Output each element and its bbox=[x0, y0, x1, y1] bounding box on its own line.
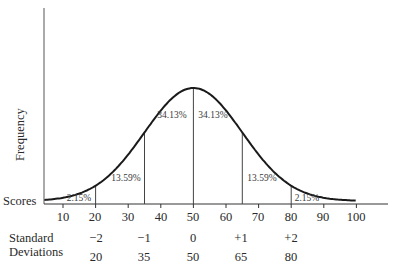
tick-label: 30 bbox=[122, 210, 135, 225]
x-axis-label: Scores bbox=[3, 194, 36, 209]
tick-label: 70 bbox=[252, 210, 265, 225]
sd-value: +1 bbox=[234, 231, 247, 246]
sd-score: 20 bbox=[90, 250, 103, 265]
region-percent: 13.59% bbox=[111, 173, 140, 183]
tick-label: 20 bbox=[89, 210, 102, 225]
x-axis-ticks bbox=[63, 204, 356, 208]
tick-label: 40 bbox=[155, 210, 168, 225]
sd-value: −1 bbox=[137, 231, 150, 246]
normal-curve bbox=[44, 88, 355, 201]
normal-curve-chart bbox=[0, 0, 396, 274]
sd-label-line2: Deviations bbox=[9, 245, 63, 260]
tick-label: 10 bbox=[57, 210, 70, 225]
region-percent: 34.13% bbox=[157, 110, 186, 120]
tick-label: 100 bbox=[347, 210, 366, 225]
sd-divider-lines bbox=[96, 88, 292, 204]
tick-label: 90 bbox=[317, 210, 330, 225]
sd-value: 0 bbox=[190, 231, 196, 246]
sd-score: 65 bbox=[235, 250, 248, 265]
tick-label: 60 bbox=[220, 210, 233, 225]
region-percent: 2.15% bbox=[67, 193, 92, 203]
sd-label-line1: Standard bbox=[9, 231, 53, 246]
sd-value: −2 bbox=[89, 231, 102, 246]
region-percent: 13.59% bbox=[247, 173, 276, 183]
sd-value: +2 bbox=[284, 231, 297, 246]
region-percent: 34.13% bbox=[198, 110, 227, 120]
tick-label: 80 bbox=[285, 210, 298, 225]
sd-score: 35 bbox=[138, 250, 151, 265]
region-percent: 2.15% bbox=[295, 193, 320, 203]
tick-label: 50 bbox=[187, 210, 200, 225]
sd-score: 80 bbox=[285, 250, 298, 265]
y-axis-label: Frequency bbox=[13, 108, 28, 161]
sd-score: 50 bbox=[187, 250, 200, 265]
